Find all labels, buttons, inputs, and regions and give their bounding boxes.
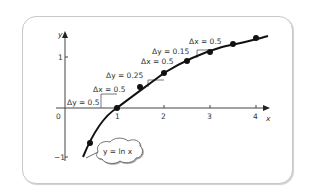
y-tick-1: 1	[58, 53, 63, 62]
y-axis-label: y	[57, 30, 63, 39]
dy-label-3: Δy = 0.15	[152, 47, 190, 56]
dx-label-3: Δx = 0.5	[189, 37, 222, 46]
origin-label: 0	[56, 112, 61, 121]
callout-label: y = ln x	[103, 147, 133, 156]
function-callout: y = ln x	[86, 138, 143, 163]
x-axis-label: x	[265, 114, 271, 123]
y-axis-arrow-icon	[62, 31, 68, 38]
x-tick-1: 1	[115, 112, 120, 121]
dy-label-2: Δy = 0.25	[106, 71, 144, 80]
x-axis-arrow-icon	[263, 105, 270, 111]
ln-plot: y x 0 1 2 3 4 1 −1 Δy = 0.5 Δx = 0.5 Δy …	[0, 0, 315, 194]
x-tick-3: 3	[207, 112, 212, 121]
dx-label-2: Δx = 0.5	[141, 57, 174, 66]
x-tick-2: 2	[161, 112, 166, 121]
y-tick-neg1: −1	[54, 153, 65, 162]
dx-label-1: Δx = 0.5	[93, 85, 126, 94]
dy-label-1: Δy = 0.5	[67, 98, 100, 107]
x-tick-4: 4	[253, 112, 258, 121]
